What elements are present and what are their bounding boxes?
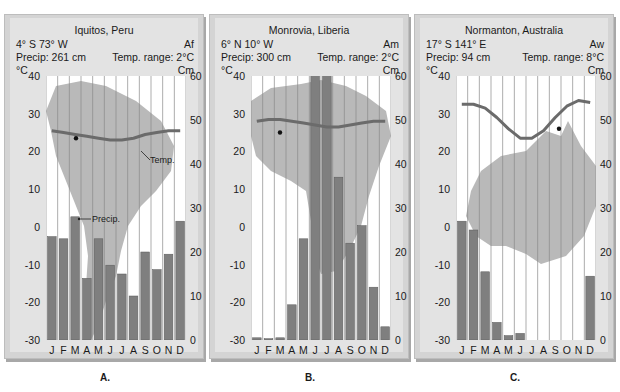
coords-row: 6° N 10° WAm (221, 38, 399, 50)
precip-axis-tick: 20 (395, 246, 407, 258)
precip-axis-tick: 40 (395, 158, 407, 170)
precip-axis-tick: 50 (600, 114, 612, 126)
precip-bar (504, 336, 513, 340)
units-row: °CCm (221, 64, 399, 76)
temp-axis-tick: -30 (217, 334, 245, 346)
precip-total: Precip: 94 cm (426, 51, 490, 63)
precip-axis-tick: 60 (600, 70, 612, 82)
station-title: Monrovia, Liberia (209, 24, 409, 36)
precip-bar (334, 177, 343, 340)
month-label: O (151, 344, 163, 356)
climograph-panel-2: Monrovia, Liberia6° N 10° WAmPrecip: 300… (209, 14, 409, 359)
precip-bar (311, 76, 320, 340)
precip-bar (358, 226, 367, 340)
precip-axis-tick: 0 (600, 334, 606, 346)
month-label: N (573, 344, 585, 356)
temp-axis-tick: -10 (422, 259, 450, 271)
month-label: M (93, 344, 105, 356)
map-silhouette (466, 121, 596, 264)
coordinates: 6° N 10° W (221, 38, 273, 50)
climograph-panel-1: Iquitos, Peru4° S 73° WAfPrecip: 261 cmT… (4, 14, 204, 359)
month-label: S (344, 344, 356, 356)
month-label: A (538, 344, 550, 356)
units-row: °CCm (426, 64, 604, 76)
precip-bar (369, 287, 378, 340)
annotation-arrows (4, 14, 204, 359)
coords-row: 17° S 141° EAw (426, 38, 604, 50)
temp-axis-tick: 0 (422, 221, 450, 233)
month-label: M (298, 344, 310, 356)
precip-bar (381, 327, 390, 340)
temp-axis-tick: 10 (217, 183, 245, 195)
precip-axis-tick: 30 (600, 202, 612, 214)
precip-bar (346, 243, 355, 340)
precip-axis-tick: 50 (395, 114, 407, 126)
coordinates: 17° S 141° E (426, 38, 486, 50)
month-label: F (58, 344, 70, 356)
precip-bar (276, 338, 285, 340)
climate-code: Aw (590, 38, 604, 50)
station-title: Normanton, Australia (414, 24, 614, 36)
month-label: J (104, 344, 116, 356)
precip-total: Precip: 300 cm (221, 51, 291, 63)
plot-svg (456, 76, 596, 340)
month-label: F (263, 344, 275, 356)
panel-label: B. (305, 372, 315, 383)
stats-row: Precip: 94 cmTemp. range: 8°C (426, 51, 604, 63)
precip-axis-tick: 0 (395, 334, 401, 346)
temp-axis-tick: 40 (217, 70, 245, 82)
month-label: M (503, 344, 515, 356)
panel-label: A. (100, 372, 110, 383)
month-label: J (116, 344, 128, 356)
plot-svg (251, 76, 391, 340)
temp-axis-tick: 30 (422, 108, 450, 120)
climate-code: Am (383, 38, 399, 50)
stats-row: Precip: 300 cmTemp. range: 2°C (221, 51, 399, 63)
precip-bar (493, 322, 502, 340)
precip-bar (469, 230, 478, 340)
temp-range: Temp. range: 8°C (522, 51, 604, 63)
month-label: J (46, 344, 58, 356)
precip-bar (253, 338, 262, 340)
precip-axis-tick: 40 (600, 158, 612, 170)
precip-axis-tick: 10 (395, 290, 407, 302)
month-label: M (479, 344, 491, 356)
plot-area (456, 76, 596, 340)
panel-label: C. (510, 372, 520, 383)
month-label: D (584, 344, 596, 356)
precip-axis-tick: 20 (600, 246, 612, 258)
month-label: J (514, 344, 526, 356)
temp-axis-tick: -10 (217, 259, 245, 271)
month-label: F (468, 344, 480, 356)
precip-bar (458, 221, 467, 340)
temp-axis-tick: -30 (422, 334, 450, 346)
temp-axis-tick: 30 (217, 108, 245, 120)
precip-bar (516, 333, 525, 340)
temp-axis-tick: 40 (422, 70, 450, 82)
month-label: D (174, 344, 186, 356)
month-label: A (333, 344, 345, 356)
temp-axis-tick: -20 (422, 296, 450, 308)
month-label: A (81, 344, 93, 356)
precip-axis-tick: 30 (395, 202, 407, 214)
month-label: O (561, 344, 573, 356)
precip-axis-tick: 10 (600, 290, 612, 302)
plot-area (251, 76, 391, 340)
temp-axis-tick: 20 (422, 145, 450, 157)
month-label: A (128, 344, 140, 356)
precip-bar (586, 276, 595, 340)
climograph-panel-3: Normanton, Australia17° S 141° EAwPrecip… (414, 14, 614, 359)
precip-bar (264, 339, 273, 340)
month-label: D (379, 344, 391, 356)
month-label: J (526, 344, 538, 356)
month-label: J (309, 344, 321, 356)
temp-range: Temp. range: 2°C (317, 51, 399, 63)
month-label: N (163, 344, 175, 356)
precip-bar (323, 76, 332, 340)
precip-bar (481, 272, 490, 340)
precip-bar (288, 305, 297, 340)
month-label: A (286, 344, 298, 356)
month-label: S (549, 344, 561, 356)
temp-axis-tick: -20 (217, 296, 245, 308)
month-label: M (69, 344, 81, 356)
